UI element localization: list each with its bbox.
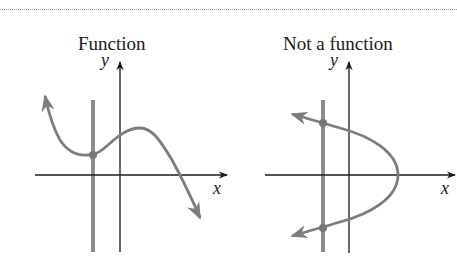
parabola-upper-branch [292, 114, 398, 175]
function-graph [35, 62, 227, 252]
intersection-point-upper [319, 119, 327, 127]
vertical-line-test-figure [0, 0, 457, 266]
cubic-curve [45, 96, 200, 217]
intersection-point-lower [319, 224, 327, 232]
not-function-graph [265, 62, 455, 253]
intersection-point [89, 151, 97, 159]
parabola-lower-branch [292, 175, 398, 236]
